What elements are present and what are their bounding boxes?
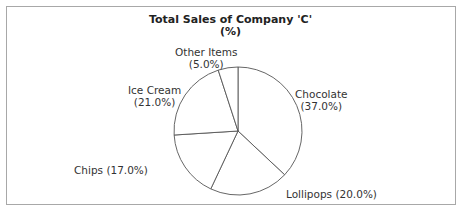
label-other-items: Other Items (5.0%) xyxy=(175,46,238,70)
label-ice-cream-name: Ice Cream xyxy=(128,84,181,96)
label-chocolate: Chocolate (37.0%) xyxy=(295,88,348,112)
label-other-items-name: Other Items xyxy=(175,46,238,58)
label-chocolate-pct: (37.0%) xyxy=(295,100,348,112)
label-ice-cream: Ice Cream (21.0%) xyxy=(128,84,181,108)
label-chocolate-name: Chocolate xyxy=(295,88,348,100)
pie-chart xyxy=(0,0,461,212)
label-lollipops: Lollipops (20.0%) xyxy=(286,188,377,200)
label-chips: Chips (17.0%) xyxy=(74,164,148,176)
label-other-items-pct: (5.0%) xyxy=(175,58,238,70)
label-ice-cream-pct: (21.0%) xyxy=(128,96,181,108)
pie-slices xyxy=(174,67,302,195)
